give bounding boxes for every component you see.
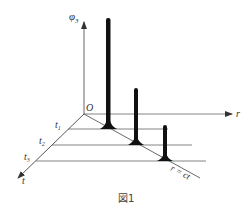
spike-t1 [100, 18, 117, 129]
t-axis-label: t [22, 175, 25, 186]
t2-label: t2 [39, 135, 45, 147]
phi-axis-label: φ3 [69, 10, 79, 25]
t-axis [18, 114, 84, 178]
r-axis-label: r [236, 108, 240, 119]
t3-label: t3 [24, 151, 30, 163]
origin-label: O [86, 102, 93, 113]
wavefront-label: r = ct [169, 163, 192, 182]
t1-label: t1 [55, 119, 61, 131]
spike-t2 [128, 88, 144, 145]
wave-propagation-diagram: φ3 O r t t1 t2 t3 r = ct 図1 [0, 0, 251, 212]
figure-caption: 図1 [118, 193, 134, 204]
